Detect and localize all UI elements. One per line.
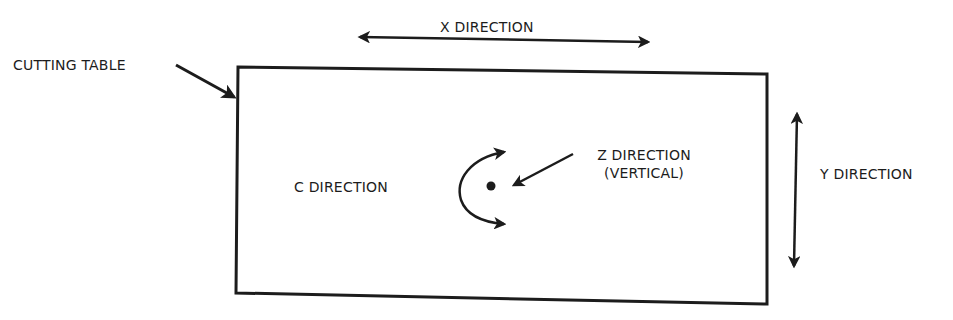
- c-direction-label: C DIRECTION: [294, 178, 388, 196]
- cutting-table-label: CUTTING TABLE: [13, 56, 126, 74]
- x-direction-arrow: [360, 37, 648, 42]
- z-direction-label-line1: Z DIRECTION: [584, 146, 704, 164]
- diagram-graphics: [0, 0, 953, 320]
- y-direction-arrow: [794, 114, 797, 266]
- y-direction-label: Y DIRECTION: [820, 165, 913, 183]
- z-direction-pointer-arrow: [514, 154, 573, 185]
- diagram-canvas: CUTTING TABLE X DIRECTION Y DIRECTION Z …: [0, 0, 953, 320]
- c-direction-arc-arrow: [460, 152, 504, 224]
- x-direction-label: X DIRECTION: [440, 18, 534, 36]
- cutting-table-pointer-arrow: [176, 65, 234, 97]
- z-direction-label-line2: (VERTICAL): [584, 164, 704, 182]
- z-direction-dot: [487, 182, 496, 191]
